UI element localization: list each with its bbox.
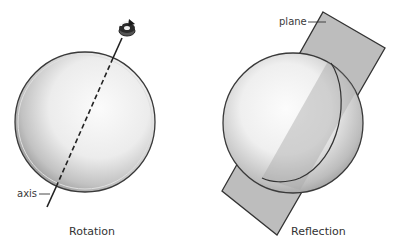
reflection-caption: Reflection xyxy=(291,225,346,238)
rotation-sphere xyxy=(15,52,155,192)
axis-label: axis xyxy=(17,188,37,200)
diagram-canvas xyxy=(0,0,401,250)
axis-line-bottom xyxy=(47,185,57,207)
rotate-arrow-icon xyxy=(119,19,135,36)
axis-line-top xyxy=(113,38,122,58)
rotation-panel xyxy=(15,19,155,207)
reflection-panel xyxy=(222,12,385,235)
plane-label: plane xyxy=(279,16,307,28)
rotation-caption: Rotation xyxy=(69,225,115,238)
symmetry-diagram: axis plane Rotation Reflection xyxy=(0,0,401,250)
